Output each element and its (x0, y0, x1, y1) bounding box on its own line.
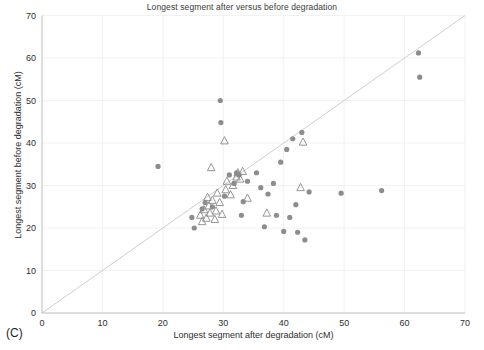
y-tick-label: 0 (16, 308, 36, 318)
scatter-plot-figure: Longest segment after versus before degr… (0, 0, 484, 350)
panel-label: (C) (6, 326, 23, 340)
x-axis-label: Longest segment after degradation (cM) (42, 330, 465, 340)
y-tick-label: 30 (16, 181, 36, 191)
x-tick-label: 50 (339, 318, 349, 328)
x-tick-label: 10 (97, 318, 107, 328)
chart-title: Longest segment after versus before degr… (0, 2, 484, 12)
x-tick-label: 0 (39, 318, 44, 328)
x-tick-label: 60 (400, 318, 410, 328)
y-tick-label: 60 (16, 53, 36, 63)
y-tick-label: 50 (16, 96, 36, 106)
identity-reference-line (42, 16, 465, 314)
x-tick-label: 70 (460, 318, 470, 328)
x-tick-label: 20 (158, 318, 168, 328)
plot-canvas (0, 0, 484, 350)
y-tick-label: 20 (16, 223, 36, 233)
y-tick-label: 40 (16, 138, 36, 148)
data-markers (155, 50, 422, 242)
x-tick-label: 30 (218, 318, 228, 328)
x-tick-label: 40 (279, 318, 289, 328)
y-tick-label: 70 (16, 11, 36, 21)
y-tick-label: 10 (16, 266, 36, 276)
